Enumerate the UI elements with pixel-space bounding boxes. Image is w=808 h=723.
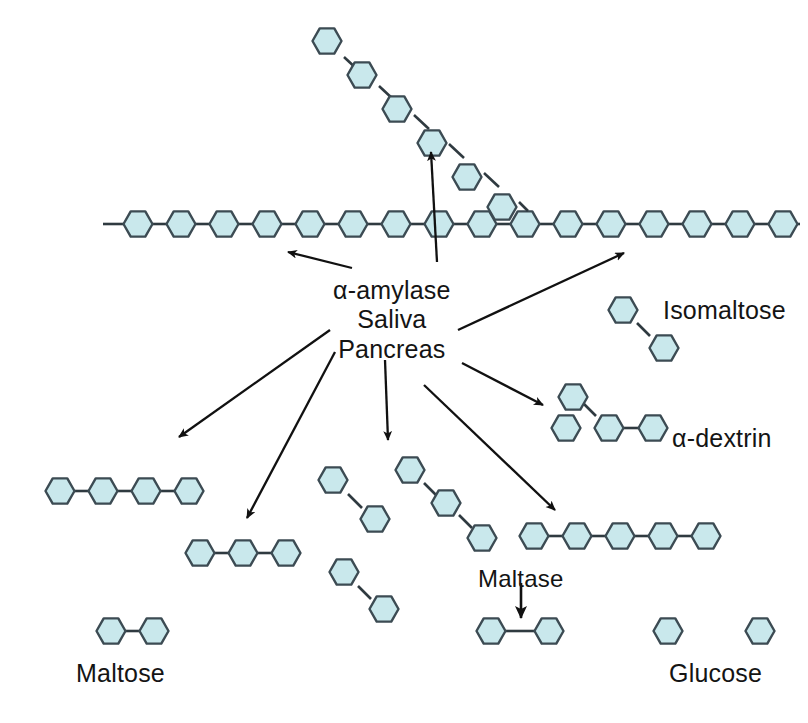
diagram-canvas: α-amylase Saliva Pancreas Isomaltose α-d… bbox=[0, 0, 808, 723]
arrow-to-tetrasaccharide bbox=[179, 330, 330, 437]
enzyme-label-line3: Pancreas bbox=[333, 335, 451, 364]
product-pentasaccharide bbox=[520, 523, 721, 548]
isomaltose-label: Isomaltose bbox=[663, 296, 786, 325]
arrow-to-isomaltose-lower bbox=[385, 360, 388, 440]
maltose-product-cleaved-structure bbox=[477, 618, 564, 643]
enzyme-label-line2: Saliva bbox=[333, 305, 451, 334]
alpha-dextrin-label: α-dextrin bbox=[672, 424, 772, 453]
product-isomaltose-center-lower bbox=[330, 559, 399, 621]
product-tetrasaccharide bbox=[46, 478, 204, 503]
maltose-structure bbox=[97, 618, 169, 643]
arrow-to-main-chain-right bbox=[458, 253, 624, 330]
arrow-to-trisaccharide bbox=[247, 352, 335, 518]
arrow-to-alpha-dextrin bbox=[462, 363, 543, 405]
product-branched-trisaccharide bbox=[396, 457, 497, 550]
arrow-to-branch-chain bbox=[431, 152, 437, 262]
maltose-label: Maltose bbox=[76, 659, 165, 688]
enzyme-label-line1: α-amylase bbox=[333, 276, 451, 305]
starch-branch-chain bbox=[313, 28, 529, 219]
glucose-monomer-right bbox=[746, 618, 775, 643]
starch-main-chain bbox=[103, 211, 800, 236]
arrow-to-main-chain-left bbox=[288, 252, 352, 268]
enzyme-label: α-amylase Saliva Pancreas bbox=[333, 276, 451, 364]
maltase-label: Maltase bbox=[478, 565, 563, 593]
alpha-dextrin-structure bbox=[552, 384, 668, 440]
glucose-monomer-left bbox=[654, 618, 683, 643]
product-isomaltose-center-upper bbox=[319, 467, 390, 531]
product-trisaccharide bbox=[186, 540, 301, 565]
glucose-label: Glucose bbox=[669, 659, 762, 688]
